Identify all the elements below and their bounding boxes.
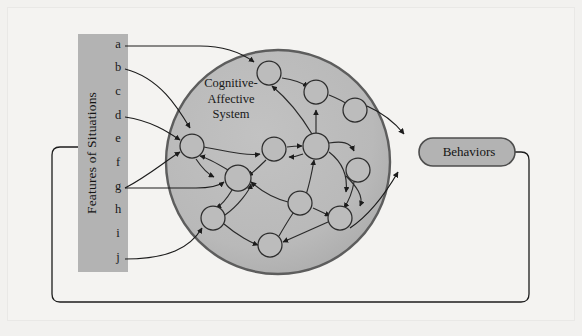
node-n6 bbox=[303, 133, 329, 159]
feature-letter-c: c bbox=[110, 84, 126, 99]
feature-letter-f: f bbox=[110, 155, 126, 170]
diagram-canvas: Features of Situations abcdefghij Cognit… bbox=[0, 0, 582, 336]
diagram-svg bbox=[0, 0, 582, 336]
node-n7 bbox=[225, 165, 251, 191]
feature-letter-b: b bbox=[110, 60, 126, 75]
feature-letter-e: e bbox=[110, 131, 126, 146]
node-n5 bbox=[262, 137, 286, 161]
node-n12 bbox=[258, 233, 282, 257]
behaviors-pill bbox=[419, 138, 515, 166]
node-n2 bbox=[257, 61, 281, 85]
node-n1 bbox=[180, 134, 204, 158]
node-n10 bbox=[328, 206, 352, 230]
node-n11 bbox=[201, 206, 225, 230]
node-n3 bbox=[304, 80, 328, 104]
feature-letter-d: d bbox=[110, 108, 126, 123]
feature-letter-g: g bbox=[110, 179, 126, 194]
node-n9 bbox=[288, 191, 312, 215]
node-n8 bbox=[346, 158, 370, 182]
feature-letter-i: i bbox=[110, 226, 126, 241]
feature-letter-j: j bbox=[110, 250, 126, 265]
node-n4 bbox=[343, 98, 367, 122]
feature-letter-h: h bbox=[110, 202, 126, 217]
feature-letter-a: a bbox=[110, 37, 126, 52]
